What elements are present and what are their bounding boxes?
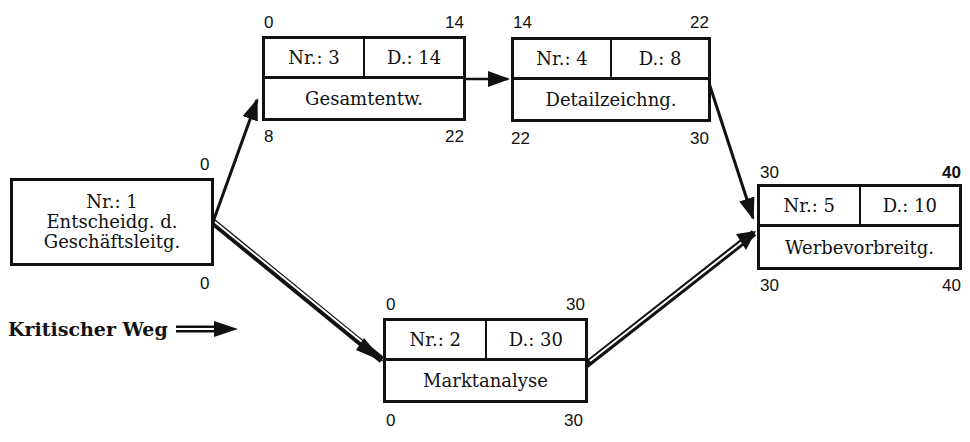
node-2-nr: Nr.: 2 (386, 321, 485, 358)
node-3-box[interactable]: Nr.: 3 D.: 14 Gesamtentw. (262, 36, 466, 121)
node-4-earliest-finish: 22 (690, 14, 709, 31)
node-5-earliest-start: 30 (760, 164, 779, 181)
node-5-name: Werbevorbreitg. (760, 227, 959, 267)
edge-1-2-critical (213, 222, 384, 362)
node-3-latest-finish: 22 (445, 128, 464, 145)
node-1-bottom-value: 0 (200, 275, 209, 292)
node-3-earliest-finish: 14 (445, 14, 464, 31)
edge-2-5-critical (586, 231, 756, 365)
node-3-latest-start: 8 (264, 128, 273, 145)
node-3-name: Gesamtentw. (265, 79, 463, 119)
node-4-latest-finish: 30 (690, 130, 709, 147)
node-3-duration: D.: 14 (363, 39, 463, 76)
node-3-nr: Nr.: 3 (265, 39, 363, 76)
node-5-latest-start: 30 (760, 277, 779, 294)
node-1-top-value: 0 (200, 156, 209, 173)
node-2-name: Marktanalyse (386, 361, 585, 401)
critical-path-legend: Kritischer Weg (8, 318, 168, 340)
node-4-duration: D.: 8 (610, 40, 708, 77)
node-4-latest-start: 22 (511, 130, 530, 147)
node-2-latest-start: 0 (386, 412, 395, 429)
node-4-box[interactable]: Nr.: 4 D.: 8 Detailzeichng. (511, 37, 711, 122)
node-4-earliest-start: 14 (513, 14, 532, 31)
node-5-nr: Nr.: 5 (760, 187, 859, 224)
node-2-box[interactable]: Nr.: 2 D.: 30 Marktanalyse (383, 318, 588, 403)
edge-4-5 (708, 80, 753, 218)
node-5-duration: D.: 10 (859, 187, 960, 224)
node-2-earliest-start: 0 (386, 296, 395, 313)
node-5-latest-finish: 40 (942, 277, 961, 294)
node-2-latest-finish: 30 (564, 412, 583, 429)
node-4-name: Detailzeichng. (514, 80, 708, 120)
node-5-earliest-finish: 40 (942, 164, 961, 181)
node-1-line-2: Geschäftsleitg. (44, 232, 180, 252)
edge-1-3 (213, 100, 257, 222)
node-4-nr: Nr.: 4 (514, 40, 610, 77)
node-2-earliest-finish: 30 (566, 296, 585, 313)
node-1-box[interactable]: Nr.: 1 Entscheidg. d. Geschäftsleitg. (10, 178, 214, 266)
node-2-duration: D.: 30 (485, 321, 586, 358)
node-1-nr: Nr.: 1 (86, 192, 137, 212)
critical-path-legend-arrow (176, 321, 238, 337)
node-3-earliest-start: 0 (264, 14, 273, 31)
node-5-box[interactable]: Nr.: 5 D.: 10 Werbevorbreitg. (757, 184, 962, 270)
node-1-line-1: Entscheidg. d. (46, 212, 177, 232)
